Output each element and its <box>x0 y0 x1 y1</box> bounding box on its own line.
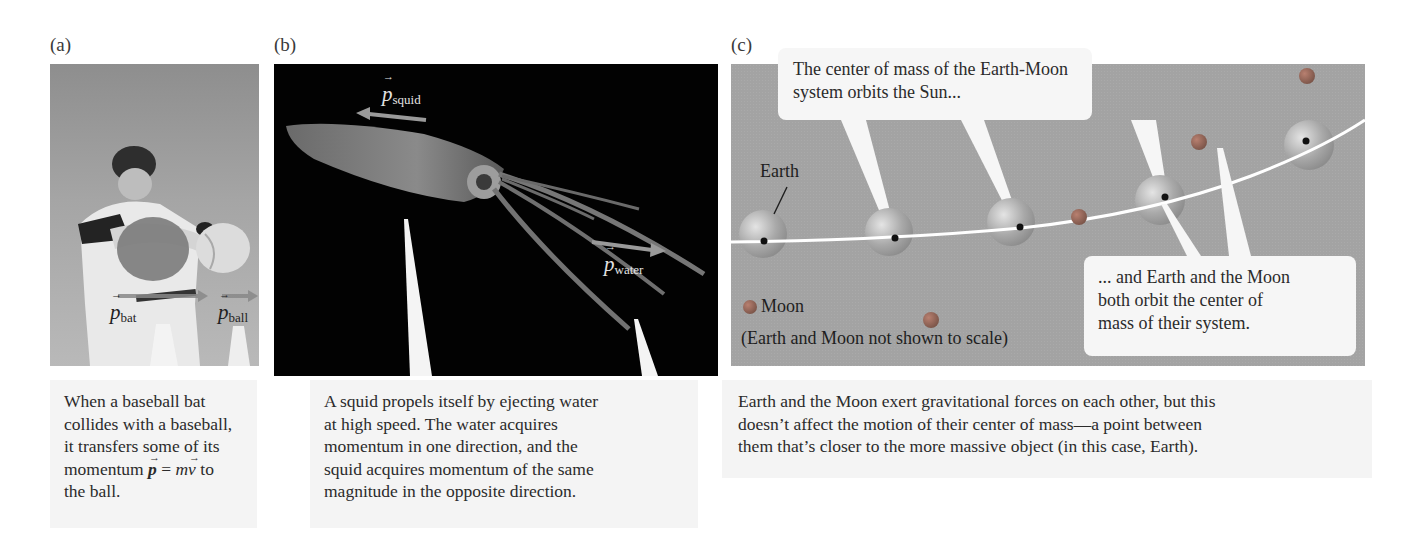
panel-c-label: (c) <box>731 34 752 56</box>
baseball-batter-photo: pbat pball <box>50 64 259 366</box>
scale-note: (Earth and Moon not shown to scale) <box>741 328 1008 349</box>
momentum-equation-line: momentum p = mv to <box>64 458 247 481</box>
orbit-path <box>731 120 1365 242</box>
caption-c: Earth and the Moon exert gravitational f… <box>722 380 1372 478</box>
moon-legend-label: Moon <box>761 296 804 317</box>
earth-icon <box>987 198 1035 246</box>
panel-a-label: (a) <box>50 34 71 56</box>
earth-label: Earth <box>760 161 799 182</box>
p-ball-vector-label: pball <box>218 300 248 326</box>
moon-legend-icon <box>743 300 757 314</box>
earth-icon <box>865 208 913 256</box>
callout-both-orbit-center-of-mass: ... and Earth and the Moon both orbit th… <box>1084 256 1356 356</box>
caption-b: A squid propels itself by ejecting water… <box>310 380 698 528</box>
earth-icon <box>739 210 787 258</box>
squid-illustration <box>274 64 718 376</box>
moon-icon <box>1191 134 1207 150</box>
p-bat-vector-label: pbat <box>110 300 136 326</box>
caption-a: When a baseball bat collides with a base… <box>50 380 257 528</box>
callout-center-of-mass-orbits-sun: The center of mass of the Earth-Moon sys… <box>778 48 1092 120</box>
panel-b-label: (b) <box>274 34 296 56</box>
moon-icon <box>923 312 939 328</box>
moon-icon <box>1299 68 1315 84</box>
moon-icon <box>1071 209 1087 225</box>
earth-icon <box>1284 120 1334 170</box>
p-water-vector-label: pwater <box>604 252 643 278</box>
squid-photo: psquid pwater <box>274 64 718 376</box>
p-squid-vector-label: psquid <box>382 82 421 108</box>
momentum-vector: p <box>148 458 157 481</box>
velocity-vector: v <box>188 458 196 481</box>
